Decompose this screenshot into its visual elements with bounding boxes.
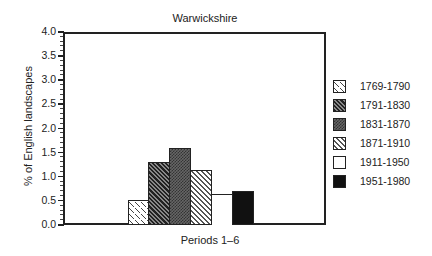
y-tick-label: 2.5 xyxy=(30,98,56,108)
chart-title: Warwickshire xyxy=(150,12,260,24)
legend-swatch xyxy=(333,137,346,150)
legend-swatch xyxy=(333,99,346,112)
legend-swatch xyxy=(333,175,346,188)
bar-1911-1950 xyxy=(211,194,233,225)
bar-1791-1830 xyxy=(148,162,170,225)
bar-1831-1870 xyxy=(169,148,191,225)
bar-1951-1980 xyxy=(232,191,254,225)
y-tick-label: 1.5 xyxy=(30,147,56,157)
legend-swatch xyxy=(333,156,346,169)
y-tick-label: 0.0 xyxy=(30,219,56,229)
y-tick-label: 1.0 xyxy=(30,171,56,181)
legend-label: 1791-1830 xyxy=(360,99,410,112)
legend-swatch xyxy=(333,80,346,93)
y-tick-label: 2.0 xyxy=(30,123,56,133)
legend-label: 1769-1790 xyxy=(360,80,410,93)
x-axis-label: Periods 1–6 xyxy=(140,234,280,246)
bar-1871-1910 xyxy=(190,170,212,225)
legend-label: 1871-1910 xyxy=(360,137,410,150)
y-tick-label: 0.5 xyxy=(30,195,56,205)
y-tick-label: 4.0 xyxy=(30,26,56,36)
legend-label: 1831-1870 xyxy=(360,118,410,131)
legend-label: 1911-1950 xyxy=(360,156,409,169)
legend-swatch xyxy=(333,118,346,131)
bar-1769-1790 xyxy=(128,200,150,225)
y-tick-label: 3.5 xyxy=(30,50,56,60)
y-tick-label: 3.0 xyxy=(30,74,56,84)
legend-label: 1951-1980 xyxy=(360,175,410,188)
